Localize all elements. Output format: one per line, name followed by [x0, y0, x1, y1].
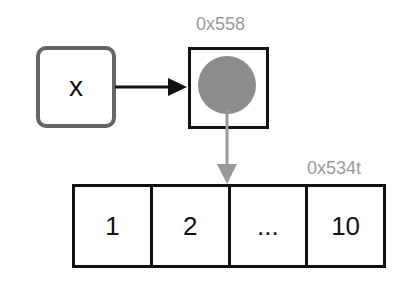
reference-arrow	[115, 78, 187, 96]
pointer-dot	[198, 56, 256, 114]
arrows-layer	[0, 0, 401, 282]
pointer-arrow	[217, 110, 237, 184]
